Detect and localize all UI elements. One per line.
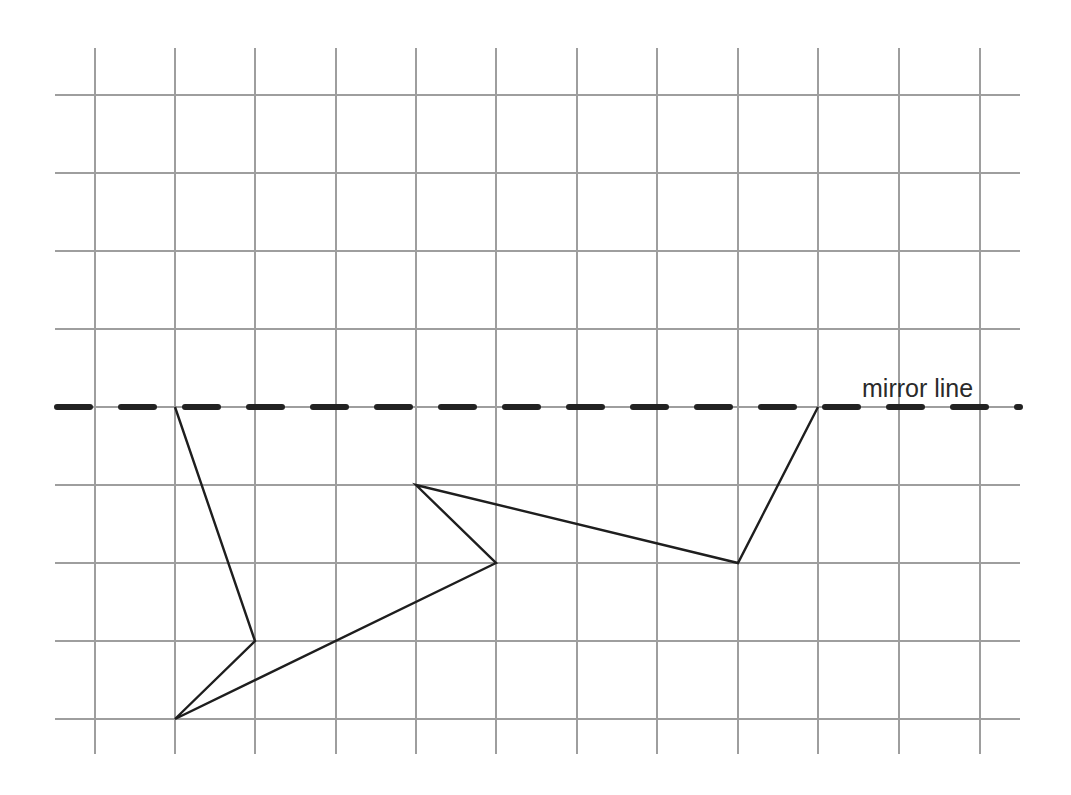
mirror-line-label: mirror line: [862, 374, 973, 402]
mirror-diagram: mirror line: [0, 0, 1071, 795]
